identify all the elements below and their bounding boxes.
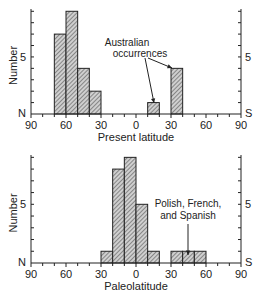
x-tick-label: 0 <box>133 268 139 280</box>
histogram-bar <box>54 34 66 114</box>
south-label: S <box>245 107 252 119</box>
histogram-bar <box>194 251 206 263</box>
histogram-bar <box>66 11 78 114</box>
annotation-text: occurrences <box>113 48 167 59</box>
y-axis-label: Number <box>7 193 19 232</box>
x-tick-label: 30 <box>95 268 107 280</box>
annotation-arrow <box>145 58 154 103</box>
x-tick-label: 60 <box>60 119 72 131</box>
histogram-bar <box>171 251 183 263</box>
x-tick-label: 90 <box>235 268 247 280</box>
annotation-text: Australian <box>105 37 149 48</box>
right-tick-label: 5 <box>245 198 251 210</box>
right-tick-label: 5 <box>245 51 251 63</box>
annotation-text: Polish, French, <box>155 198 222 209</box>
histogram-bar <box>171 68 183 114</box>
y-axis-label: Number <box>7 46 19 85</box>
histogram-bar <box>113 169 125 263</box>
present-latitude-histogram: 906030030609055NSNumberPresent latitudeA… <box>7 9 252 143</box>
histogram-bar <box>101 251 113 263</box>
x-tick-label: 30 <box>95 119 107 131</box>
x-tick-label: 90 <box>235 119 247 131</box>
x-tick-label: 0 <box>133 119 139 131</box>
x-tick-label: 90 <box>25 119 37 131</box>
x-tick-label: 30 <box>165 268 177 280</box>
annotation-text: and Spanish <box>160 210 216 221</box>
x-tick-label: 30 <box>165 119 177 131</box>
x-axis-label: Present latitude <box>98 131 174 143</box>
north-label: N <box>18 107 26 119</box>
x-axis-label: Paleolatitude <box>104 280 168 292</box>
south-label: S <box>245 256 252 268</box>
histogram-bar <box>124 157 136 263</box>
x-tick-label: 60 <box>200 268 212 280</box>
paleolatitude-histogram: 906030030609055NSNumberPaleolatitudePoli… <box>7 155 252 292</box>
y-tick-label: 5 <box>20 51 26 63</box>
x-tick-label: 90 <box>25 268 37 280</box>
histogram-bar <box>148 103 160 114</box>
y-tick-label: 5 <box>20 198 26 210</box>
histogram-bar <box>89 91 101 114</box>
histogram-bar <box>78 68 90 114</box>
north-label: N <box>18 256 26 268</box>
histogram-bar <box>148 251 160 263</box>
x-tick-label: 60 <box>200 119 212 131</box>
chart-figure: 906030030609055NSNumberPresent latitudeA… <box>0 0 256 298</box>
histogram-bar <box>136 204 148 263</box>
x-tick-label: 60 <box>60 268 72 280</box>
